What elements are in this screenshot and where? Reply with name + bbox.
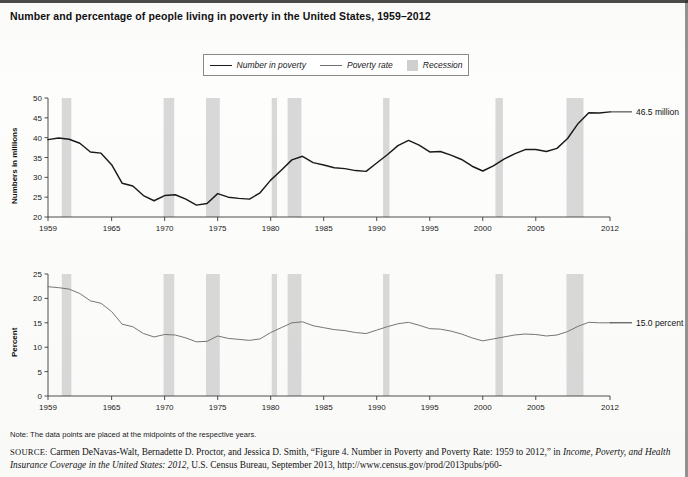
y-tick-label: 15 [33,319,42,328]
legend-label-number-in-poverty: Number in poverty [237,60,306,70]
x-tick-label: 1990 [368,224,386,233]
y-tick-label: 0 [38,392,43,401]
x-tick-label: 1995 [421,403,439,412]
y-tick-label: 35 [33,154,42,163]
x-tick-label: 2000 [474,403,492,412]
legend-label-poverty-rate: Poverty rate [347,60,393,70]
legend-item-number-in-poverty: Number in poverty [210,60,306,70]
y-tick-label: 20 [33,213,42,222]
x-tick-label: 1985 [315,403,333,412]
end-label-text: 46.5 million [636,107,679,117]
y-tick-label: 50 [33,94,42,103]
series-line-number-in-poverty [48,112,610,205]
recession-band [272,98,277,217]
chart-poverty-rate: Percent 05101520251959196519701975198019… [0,262,688,424]
series-line-poverty-rate [48,287,610,342]
x-tick-label: 1980 [262,403,280,412]
y-tick-label: 40 [33,134,42,143]
y-axis-label-top: Numbers in millions [10,128,19,204]
x-tick-label: 1959 [39,403,57,412]
x-tick-label: 1975 [209,403,227,412]
figure-title: Number and percentage of people living i… [10,10,431,22]
recession-band [62,274,72,396]
x-tick-label: 1970 [156,224,174,233]
x-tick-label: 1995 [421,224,439,233]
chart-top-canvas: 2025303540455019591965197019751980198519… [0,86,688,246]
y-tick-label: 45 [33,114,42,123]
legend-item-poverty-rate: Poverty rate [320,60,393,70]
recession-band [272,274,277,396]
y-tick-label: 5 [38,368,43,377]
recession-band [206,98,220,217]
source-line1-italic: Income, [563,447,593,457]
x-tick-label: 1990 [368,403,386,412]
y-tick-label: 10 [33,343,42,352]
recession-band [495,98,502,217]
x-tick-label: 2005 [527,224,545,233]
legend-swatch-recession-icon [407,60,418,71]
x-tick-label: 1980 [262,224,280,233]
x-tick-label: 2012 [601,403,619,412]
figure-source: SOURCE: Carmen DeNavas-Walt, Bernadette … [10,446,682,471]
x-tick-label: 2005 [527,403,545,412]
x-tick-label: 2012 [601,224,619,233]
x-tick-label: 1959 [39,224,57,233]
x-tick-label: 1975 [209,224,227,233]
recession-band [567,98,584,217]
source-prefix: SOURCE: [10,447,48,457]
x-tick-label: 1965 [103,224,121,233]
figure-note: Note: The data points are placed at the … [10,430,256,439]
recession-band [62,98,72,217]
legend-label-recession: Recession [423,60,463,70]
figure-page: Number and percentage of people living i… [0,0,688,477]
recession-band [206,274,220,396]
x-tick-label: 2000 [474,224,492,233]
recession-band [495,274,502,396]
chart-number-in-poverty: Numbers in millions 20253035404550195919… [0,86,688,246]
chart-legend: Number in poverty Poverty rate Recession [203,54,469,76]
recession-band [164,98,175,217]
recession-band [288,274,302,396]
legend-line-dark-icon [210,65,232,66]
chart-bottom-canvas: 0510152025195919651970197519801985199019… [0,262,688,424]
recession-band [383,274,389,396]
y-axis-label-bottom: Percent [10,328,19,357]
page-top-rule [0,0,688,3]
legend-item-recession: Recession [407,60,463,71]
y-tick-label: 20 [33,294,42,303]
source-line1-text: Carmen DeNavas-Walt, Bernadette D. Proct… [48,447,563,457]
x-tick-label: 1970 [156,403,174,412]
source-line2-text: , U.S. Census Bureau, September 2013, ht… [187,460,502,470]
y-tick-label: 25 [33,270,42,279]
recession-band [567,274,584,396]
legend-line-light-icon [320,65,342,66]
y-tick-label: 25 [33,193,42,202]
x-tick-label: 1985 [315,224,333,233]
end-label-text: 15.0 percent [636,318,684,328]
x-tick-label: 1965 [103,403,121,412]
y-tick-label: 30 [33,173,42,182]
